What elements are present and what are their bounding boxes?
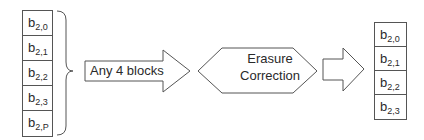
block-subscript: 2,0	[387, 34, 400, 44]
block-subscript: 2,0	[35, 22, 48, 32]
erasure-correction-diagram: b2,0 b2,1 b2,2 b2,3 b2,P Any 4 blocks Er…	[0, 0, 424, 140]
block-subscript: 2,P	[35, 122, 49, 132]
curly-brace	[57, 11, 73, 135]
block-subscript: 2,2	[35, 72, 48, 82]
output-block-2: b2,2	[375, 71, 406, 95]
diagram-shapes	[0, 0, 424, 140]
output-block-3: b2,3	[375, 95, 406, 119]
block-subscript: 2,1	[35, 47, 48, 57]
process-line-2: Correction	[222, 67, 318, 84]
output-arrow-shape	[323, 48, 364, 91]
any-blocks-arrow-label: Any 4 blocks	[90, 63, 164, 78]
block-subscript: 2,2	[387, 82, 400, 92]
erasure-correction-label: Erasure Correction	[222, 50, 318, 84]
output-block-1: b2,1	[375, 47, 406, 71]
block-subscript: 2,3	[387, 106, 400, 116]
input-block-2: b2,2	[23, 61, 52, 86]
input-block-4: b2,P	[23, 111, 52, 136]
input-block-column: b2,0 b2,1 b2,2 b2,3 b2,P	[22, 10, 53, 137]
input-block-3: b2,3	[23, 86, 52, 111]
block-subscript: 2,3	[35, 97, 48, 107]
process-line-1: Erasure	[222, 50, 318, 67]
output-block-column: b2,0 b2,1 b2,2 b2,3	[374, 22, 407, 120]
output-block-0: b2,0	[375, 23, 406, 47]
input-block-0: b2,0	[23, 11, 52, 36]
block-subscript: 2,1	[387, 58, 400, 68]
input-block-1: b2,1	[23, 36, 52, 61]
